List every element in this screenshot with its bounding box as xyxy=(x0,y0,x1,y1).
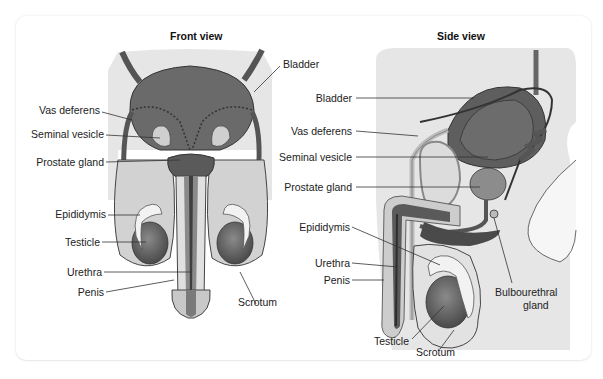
side-label-vas-deferens: Vas deferens xyxy=(270,125,352,137)
front-label-testicle: Testicle xyxy=(50,236,100,248)
side-label-urethra: Urethra xyxy=(300,257,350,269)
side-label-testicle: Testicle xyxy=(374,335,409,347)
front-view-title: Front view xyxy=(170,30,223,42)
side-label-epididymis: Epididymis xyxy=(280,221,350,233)
side-label-scrotum: Scrotum xyxy=(416,346,455,358)
front-label-prostate-gland: Prostate gland xyxy=(24,156,104,168)
front-label-penis: Penis xyxy=(62,286,104,298)
front-label-bladder: Bladder xyxy=(283,58,319,70)
side-view-title: Side view xyxy=(437,30,485,42)
side-label-penis: Penis xyxy=(306,274,350,286)
side-label-prostate-gland: Prostate gland xyxy=(262,181,352,193)
side-label-bladder: Bladder xyxy=(300,92,352,104)
front-label-seminal-vesicle: Seminal vesicle xyxy=(20,128,104,140)
front-view-drawing xyxy=(108,49,272,318)
side-label-bulbourethral-gland: gland xyxy=(523,299,549,311)
front-label-scrotum: Scrotum xyxy=(238,296,277,308)
side-label-bulbourethral: Bulbourethral xyxy=(495,286,557,298)
front-label-vas-deferens: Vas deferens xyxy=(28,104,100,116)
front-label-urethra: Urethra xyxy=(54,266,102,278)
front-label-epididymis: Epididymis xyxy=(40,208,106,220)
side-label-seminal-vesicle: Seminal vesicle xyxy=(260,151,352,163)
